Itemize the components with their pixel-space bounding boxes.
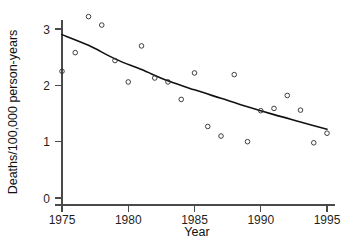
scatter-chart-figure: 0123 19751980198519901995 Year Deaths/10… [0, 0, 353, 242]
data-point-marker [272, 106, 277, 111]
data-point-marker [285, 93, 290, 98]
x-tick-label: 1995 [314, 213, 341, 227]
y-tick-label: 2 [43, 79, 50, 93]
data-point-marker [245, 139, 250, 144]
y-tick-group: 0123 [43, 23, 62, 206]
data-point-marker [232, 72, 237, 77]
x-tick-group: 19751980198519901995 [49, 205, 341, 227]
data-point-marker [298, 108, 303, 113]
data-point-marker [99, 23, 104, 28]
data-point-marker [205, 124, 210, 129]
data-point-marker [73, 50, 78, 55]
y-tick-label: 3 [43, 23, 50, 37]
data-point-marker [86, 14, 91, 19]
data-point-marker [126, 80, 131, 85]
x-axis-title: Year [184, 225, 209, 239]
chart-canvas: 0123 19751980198519901995 Year Deaths/10… [0, 0, 353, 242]
y-tick-label: 0 [43, 192, 50, 206]
data-point-marker [192, 71, 197, 76]
data-point-marker [152, 76, 157, 81]
data-point-marker [311, 140, 316, 145]
x-tick-label: 1975 [49, 213, 76, 227]
data-point-marker [179, 97, 184, 102]
data-point-group [60, 14, 330, 145]
y-tick-label: 1 [43, 135, 50, 149]
y-axis-title: Deaths/100,000 person-years [6, 30, 20, 195]
x-tick-label: 1990 [247, 213, 274, 227]
data-point-marker [219, 134, 224, 139]
data-point-marker [139, 44, 144, 49]
x-tick-label: 1980 [115, 213, 142, 227]
fitted-trend-line [62, 35, 327, 130]
data-point-marker [325, 131, 330, 136]
